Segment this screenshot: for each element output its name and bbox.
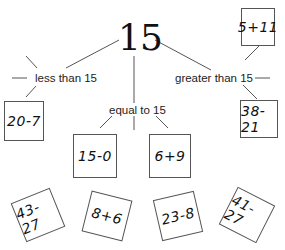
- label-greater-than: greater than 15: [175, 72, 253, 85]
- card-15-minus-0[interactable]: 15-0: [73, 134, 117, 178]
- label-less-than: less than 15: [35, 72, 97, 85]
- card-6-plus-9[interactable]: 6+9: [149, 134, 191, 178]
- sorting-diagram: 15 less than 15 equal to 15 greater than…: [0, 0, 285, 250]
- card-20-minus-7[interactable]: 20-7: [4, 101, 44, 141]
- card-5-plus-11[interactable]: 5+11: [241, 8, 275, 46]
- label-equal-to: equal to 15: [109, 104, 166, 117]
- card-38-minus-21[interactable]: 38-21: [240, 100, 278, 138]
- root-number: 15: [118, 20, 162, 56]
